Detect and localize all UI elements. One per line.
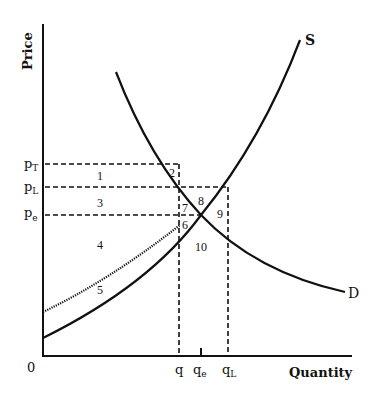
quantity-label-qe: qe [193, 362, 207, 379]
region-3: 3 [97, 196, 103, 210]
region-4: 4 [97, 238, 103, 252]
region-6: 6 [182, 218, 188, 232]
region-7: 7 [182, 201, 188, 215]
demand-curve [116, 72, 345, 292]
origin-label: 0 [27, 360, 35, 375]
region-5: 5 [97, 283, 103, 297]
quantity-label-qL: qL [222, 362, 236, 379]
supply-label: S [305, 32, 315, 48]
price-label-pe: pe [24, 205, 38, 223]
demand-label: D [348, 285, 359, 301]
supply-demand-diagram: S D Price Quantity 0 pT pL pe q qe qL 1 … [0, 0, 377, 398]
region-2: 2 [169, 166, 175, 180]
x-axis-title: Quantity [289, 365, 353, 380]
quantity-label-q: q [175, 362, 183, 377]
region-8: 8 [198, 194, 204, 208]
region-1: 1 [97, 169, 103, 183]
y-axis-title: Price [20, 32, 35, 70]
region-10: 10 [195, 240, 207, 254]
price-label-pL: pL [24, 179, 38, 196]
price-label-pT: pT [24, 156, 38, 173]
supply-curve [43, 40, 300, 338]
region-9: 9 [217, 207, 223, 221]
